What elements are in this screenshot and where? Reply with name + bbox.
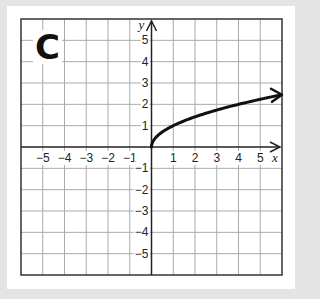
x-tick-label: 1 [170, 151, 177, 165]
y-tick-label: 1 [142, 119, 149, 133]
x-tick-label: −2 [101, 151, 115, 165]
y-tick-label: 5 [142, 33, 149, 47]
y-tick-label: −3 [135, 204, 149, 218]
y-tick-label: −5 [135, 247, 149, 261]
x-tick-label: 3 [213, 151, 220, 165]
y-tick-label: 4 [142, 55, 149, 69]
y-tick-label: −2 [135, 183, 149, 197]
x-tick-label: −5 [36, 151, 50, 165]
y-tick-label: 2 [142, 97, 149, 111]
panel-label: C [33, 30, 62, 64]
x-tick-label: 2 [192, 151, 199, 165]
y-tick-label: −1 [135, 161, 149, 175]
x-tick-label: −3 [79, 151, 93, 165]
y-tick-label: 3 [142, 76, 149, 90]
y-tick-label: −4 [135, 225, 149, 239]
x-tick-label: 5 [257, 151, 264, 165]
y-axis-label: y [137, 17, 145, 32]
x-axis-label: x [271, 150, 278, 165]
x-tick-label: 4 [235, 151, 242, 165]
x-tick-label: −4 [58, 151, 72, 165]
